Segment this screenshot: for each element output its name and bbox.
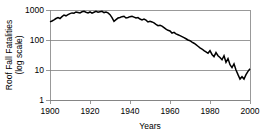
plot-area-background	[50, 10, 250, 100]
y-tick-labels: 1000 100 10 1	[25, 5, 44, 105]
x-tick-label-1960: 1960	[161, 106, 180, 116]
y-tick-label-10: 10	[35, 65, 45, 75]
x-tick-label-1920: 1920	[81, 106, 100, 116]
x-tick-marks	[50, 100, 250, 104]
x-tick-label-1900: 1900	[41, 106, 60, 116]
y-tick-marks	[46, 10, 50, 100]
x-tick-label-1940: 1940	[121, 106, 140, 116]
roof-fall-fatalities-chart: 1000 100 10 1 1900 1920 1940 1960 1980 2…	[0, 0, 268, 133]
y-axis-title-line2: (log scale)	[14, 35, 24, 74]
y-tick-label-1000: 1000	[25, 5, 44, 15]
y-axis-title-line1: Roof Fall Fatalities	[4, 20, 14, 90]
y-tick-label-100: 100	[30, 35, 44, 45]
x-axis-title: Years	[139, 121, 160, 131]
x-tick-label-1980: 1980	[201, 106, 220, 116]
x-tick-labels: 1900 1920 1940 1960 1980 2000	[41, 106, 260, 116]
chart-canvas: 1000 100 10 1 1900 1920 1940 1960 1980 2…	[0, 0, 268, 133]
y-axis-title: Roof Fall Fatalities (log scale)	[4, 20, 24, 90]
y-tick-label-1: 1	[39, 95, 44, 105]
x-tick-label-2000: 2000	[241, 106, 260, 116]
